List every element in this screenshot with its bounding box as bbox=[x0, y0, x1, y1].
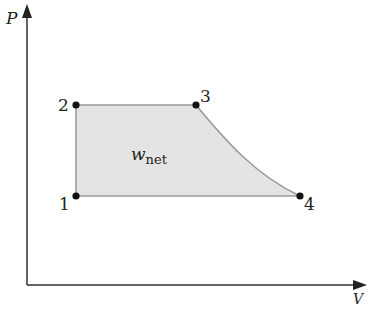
point-label-4: 4 bbox=[304, 194, 315, 214]
pv-diagram: P V 2 3 1 4 wnet bbox=[0, 0, 382, 332]
state-point-3 bbox=[192, 101, 199, 108]
state-point-1 bbox=[72, 192, 79, 199]
region-label-subscript: net bbox=[146, 152, 168, 167]
net-work-region bbox=[76, 105, 300, 196]
x-axis-label: V bbox=[353, 291, 365, 307]
point-label-1: 1 bbox=[59, 194, 70, 214]
point-label-2: 2 bbox=[58, 95, 69, 115]
state-point-2 bbox=[72, 101, 79, 108]
state-point-4 bbox=[296, 192, 303, 199]
y-axis-arrow-icon bbox=[22, 4, 32, 18]
y-axis-label: P bbox=[5, 8, 18, 28]
x-axis-arrow-icon bbox=[353, 280, 367, 290]
region-label-main: w bbox=[131, 144, 146, 164]
point-label-3: 3 bbox=[200, 86, 211, 106]
